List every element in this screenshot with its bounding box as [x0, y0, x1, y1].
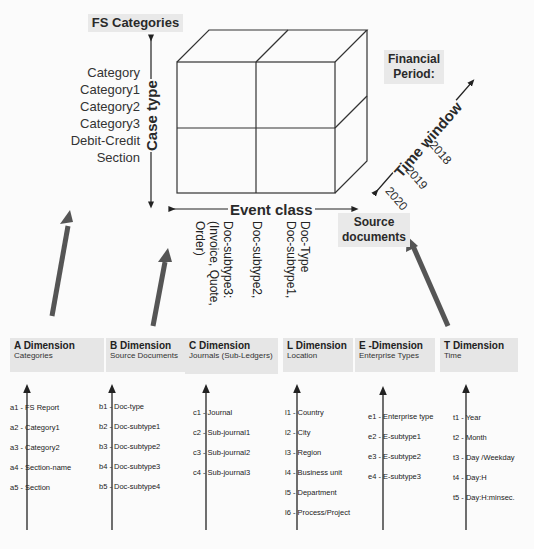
category-item: Category3 — [60, 115, 140, 132]
dim-l-item: l4 - Business unit — [285, 468, 342, 477]
cube — [177, 30, 367, 193]
dim-e-item: e1 - Enterprise type — [368, 412, 433, 421]
category-item: Category2 — [60, 98, 140, 115]
dim-b-item: b4 - Doc-subtype3 — [99, 462, 160, 471]
dim-b-item: b1 - Doc-type — [99, 402, 144, 411]
dim-t-item: t1 - Year — [453, 413, 481, 422]
dim-b-item: b5 - Doc-subtype4 — [99, 482, 160, 491]
event-class-label: Event class — [228, 201, 315, 218]
dim-e-item: e2 - E-subtype1 — [368, 432, 421, 441]
dim-l-item: l3 - Region — [285, 448, 321, 457]
dim-a-item: a1 - FS Report — [10, 403, 59, 412]
fs-categories-label: FS Categories — [88, 14, 183, 32]
dim-a-item: a5 - Section — [10, 483, 50, 492]
event-item: (Invoice, Quote, — [207, 221, 221, 306]
dim-c-item: c4 - Sub-journal3 — [193, 468, 250, 477]
dimension-e-header: E -Dimension Enterprise Types — [355, 338, 435, 372]
event-item: Doc-subtype3: — [221, 221, 235, 298]
dim-c-item: c3 - Sub-journal2 — [193, 448, 250, 457]
category-item: Category — [60, 64, 140, 81]
dim-l-item: l6 - Process/Project — [285, 508, 350, 517]
event-item: Order) — [193, 221, 207, 256]
event-item: Doc-subtype1, — [284, 221, 298, 298]
category-item: Section — [60, 149, 140, 166]
dimension-t-header: T Dimension Time — [440, 338, 518, 372]
dim-c-item: c1 - Journal — [193, 408, 232, 417]
dimension-l-header: L Dimension Location — [283, 338, 353, 372]
dim-t-item: t5 - Day:H:minsec. — [453, 493, 515, 502]
dim-e-item: e4 - E-subtype3 — [368, 472, 421, 481]
dim-l-item: l1 - Country — [285, 408, 324, 417]
category-item: Debit-Credit — [60, 132, 140, 149]
source-documents-label: Source documents — [338, 213, 410, 247]
dim-a-item: a2 - Category1 — [10, 423, 60, 432]
dim-b-item: b2 - Doc-subtype1 — [99, 422, 160, 431]
category-list: Category Category1 Category2 Category3 D… — [60, 64, 140, 166]
dim-a-item: a3 - Category2 — [10, 443, 60, 452]
event-item: Doc-Type — [298, 221, 312, 272]
dim-t-item: t2 - Month — [453, 433, 487, 442]
dim-l-item: l5 - Department — [285, 488, 337, 497]
financial-period-label: Financial Period: — [384, 50, 444, 84]
dim-a-item: a4 - Section-name — [10, 463, 71, 472]
dim-l-item: l2 - City — [285, 428, 310, 437]
dim-b-item: b3 - Doc-subtype2 — [99, 442, 160, 451]
dimension-a-header: A Dimension Categories — [10, 338, 104, 372]
case-type-label: Case type — [143, 79, 160, 152]
dim-t-item: t4 - Day:H — [453, 473, 487, 482]
dimension-b-header: B Dimension Source Documents — [106, 338, 189, 372]
dim-e-item: e3 - E-subtype2 — [368, 452, 421, 461]
category-item: Category1 — [60, 81, 140, 98]
event-item: Doc-subtype2, — [250, 221, 264, 298]
dimension-c-header: C Dimension Journals (Sub-Ledgers) — [185, 338, 278, 374]
dim-t-item: t3 - Day /Weekday — [453, 453, 515, 462]
dim-c-item: c2 - Sub-journal1 — [193, 428, 250, 437]
